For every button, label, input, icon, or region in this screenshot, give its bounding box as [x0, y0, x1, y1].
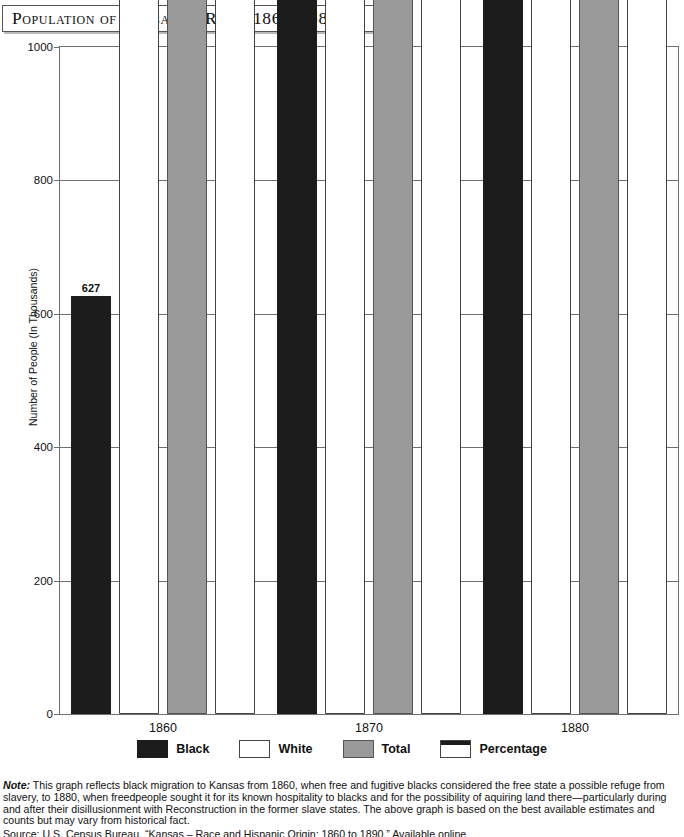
- legend-label-total: Total: [382, 742, 411, 756]
- bar-1880-black: 43,107: [483, 0, 523, 714]
- legend-swatch-white: [239, 740, 270, 758]
- legend-swatch-total: [343, 740, 374, 758]
- x-axis-label-1880: 1880: [561, 721, 589, 735]
- bar-1870-black: 17,108: [277, 0, 317, 714]
- bar-1870-total: 364,399: [373, 0, 413, 714]
- y-tick-label: 800: [34, 174, 53, 186]
- bar-1860-percentage: 0.6 %99.2 %: [215, 0, 255, 714]
- bar-1880-percentage: 4.3 %95.6 %: [627, 0, 667, 714]
- legend-label-black: Black: [176, 742, 209, 756]
- note-body: This graph reflects black migration to K…: [3, 779, 666, 826]
- y-tick-label: 400: [34, 441, 53, 453]
- legend-item-black: Black: [137, 740, 209, 758]
- legend-label-pct: Percentage: [479, 742, 546, 756]
- bar-value-label: 627: [82, 282, 100, 294]
- y-tick-label: 200: [34, 575, 53, 587]
- y-tick-mark: [54, 47, 60, 48]
- legend-label-white: White: [278, 742, 312, 756]
- chart-plot-area: Number of People (In Thousands) 02004006…: [59, 46, 679, 715]
- chart-legend: BlackWhiteTotalPercentage: [0, 740, 684, 758]
- note-text: Note: This graph reflects black migratio…: [3, 780, 679, 827]
- y-tick-label: 600: [34, 308, 53, 320]
- legend-swatch-black: [137, 740, 168, 758]
- legend-item-total: Total: [343, 740, 411, 758]
- x-axis-label-1860: 1860: [149, 721, 177, 735]
- y-tick-label: 1000: [27, 41, 53, 53]
- note-prefix: Note:: [3, 779, 30, 791]
- y-tick-mark: [54, 314, 60, 315]
- bar-1860-white: 106,390: [119, 0, 159, 714]
- y-tick-mark: [54, 714, 60, 715]
- bar-1880-white: 952,155: [531, 0, 571, 714]
- bar-1870-percentage: 4.7 %95.1 %: [421, 0, 461, 714]
- y-tick-mark: [54, 180, 60, 181]
- legend-swatch-pct: [440, 740, 471, 758]
- bar-1860-total: 107,206: [167, 0, 207, 714]
- y-tick-label: 0: [47, 708, 53, 720]
- x-axis-label-1870: 1870: [355, 721, 383, 735]
- bar-1870-white: 346,377: [325, 0, 365, 714]
- source-text: Source: U.S. Census Bureau, “Kansas – Ra…: [3, 829, 679, 837]
- legend-item-white: White: [239, 740, 312, 758]
- y-tick-mark: [54, 581, 60, 582]
- y-tick-mark: [54, 447, 60, 448]
- bar-1880-total: 996,096: [579, 0, 619, 714]
- y-axis-label: Number of People (In Thousands): [27, 268, 39, 426]
- bar-1860-black: 627: [71, 296, 111, 714]
- legend-item-pct: Percentage: [440, 740, 546, 758]
